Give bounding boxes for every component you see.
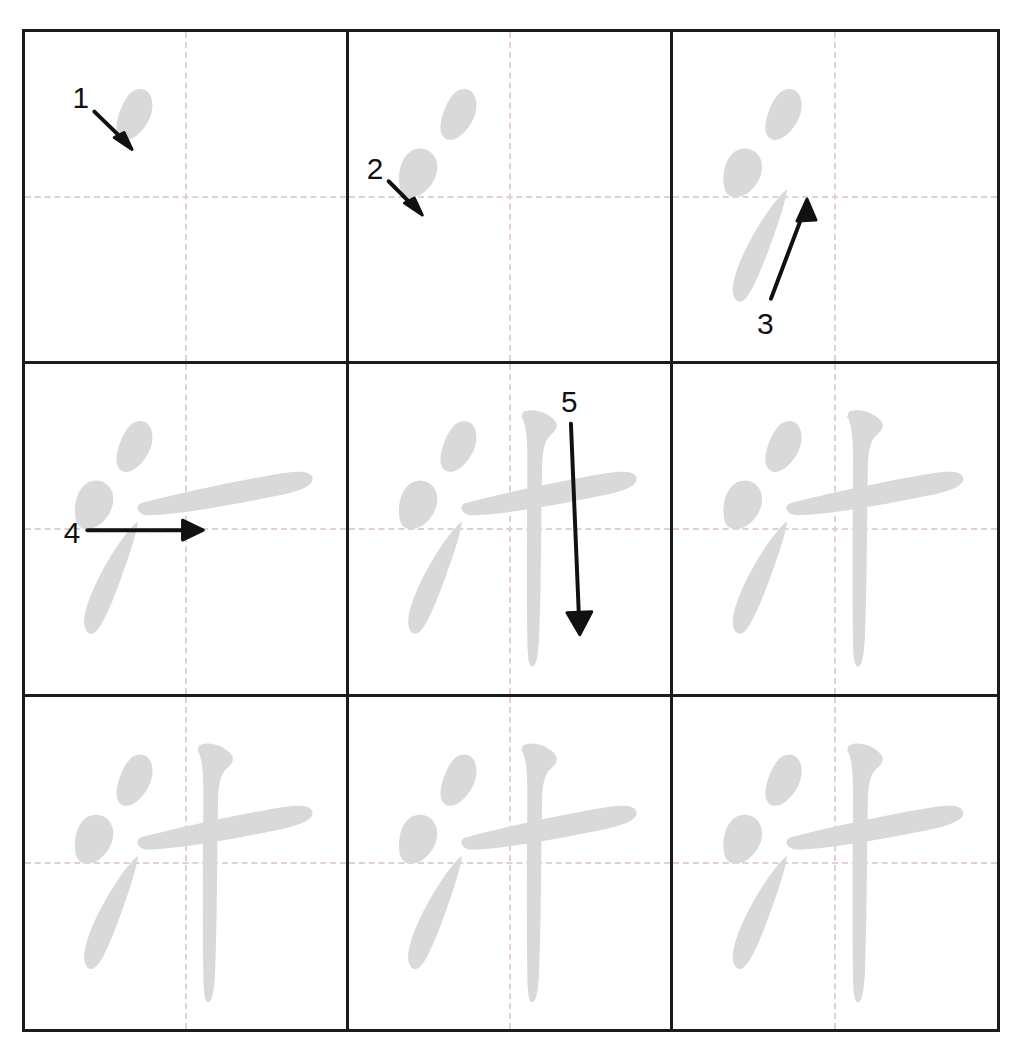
character-strokes-4 — [25, 364, 346, 693]
stroke-order-grid: 1 — [22, 29, 1000, 1032]
grid-cell-9[interactable] — [673, 697, 997, 1029]
grid-cell-2[interactable]: 2 — [349, 32, 673, 364]
character-strokes-8 — [349, 697, 670, 1029]
grid-cell-3[interactable]: 3 — [673, 32, 997, 364]
character-strokes-7 — [25, 697, 346, 1029]
grid-cell-5[interactable]: 5 — [349, 364, 673, 696]
grid-cell-6[interactable] — [673, 364, 997, 696]
character-strokes-5 — [349, 364, 670, 693]
character-strokes-2 — [349, 32, 670, 361]
character-strokes-3 — [673, 32, 997, 361]
character-strokes-6 — [673, 364, 997, 693]
grid-cell-8[interactable] — [349, 697, 673, 1029]
grid-cell-1[interactable]: 1 — [25, 32, 349, 364]
grid-cell-7[interactable] — [25, 697, 349, 1029]
worksheet-sheet: 1 — [0, 0, 1020, 1058]
character-strokes-1 — [25, 32, 346, 361]
grid-cell-4[interactable]: 4 — [25, 364, 349, 696]
character-strokes-9 — [673, 697, 997, 1029]
